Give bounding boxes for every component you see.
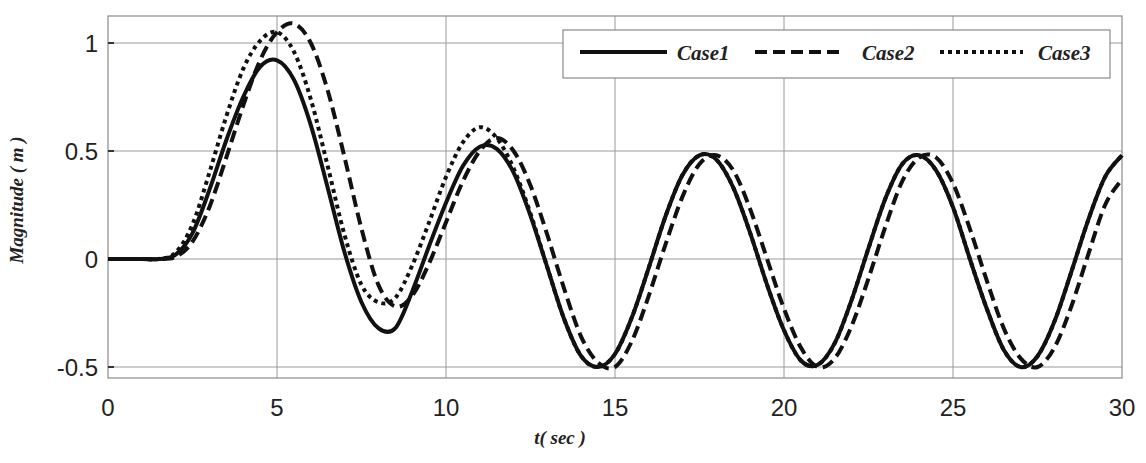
legend-label-case3: Case3 — [1038, 41, 1091, 65]
x-tick-label: 20 — [771, 394, 798, 421]
x-tick-label: 15 — [602, 394, 629, 421]
line-chart: -0.500.51 051015202530 Case1 Case2 Case3… — [0, 0, 1146, 463]
legend: Case1 Case2 Case3 — [563, 30, 1110, 78]
x-tick-label: 10 — [433, 394, 460, 421]
y-tick-label: 0.5 — [65, 138, 98, 165]
y-axis-ticks: -0.500.51 — [57, 30, 114, 381]
y-tick-label: 0 — [85, 246, 98, 273]
x-axis-label: t( sec ) — [534, 427, 586, 449]
x-axis-ticks: 051015202530 — [101, 394, 1135, 421]
x-tick-label: 30 — [1109, 394, 1136, 421]
legend-label-case1: Case1 — [677, 41, 730, 65]
legend-label-case2: Case2 — [862, 41, 915, 65]
y-axis-label: Magnitude ( m ) — [6, 136, 28, 264]
y-tick-label: -0.5 — [57, 354, 98, 381]
x-tick-label: 0 — [101, 394, 114, 421]
x-tick-label: 25 — [940, 394, 967, 421]
x-tick-label: 5 — [270, 394, 283, 421]
y-tick-label: 1 — [85, 30, 98, 57]
